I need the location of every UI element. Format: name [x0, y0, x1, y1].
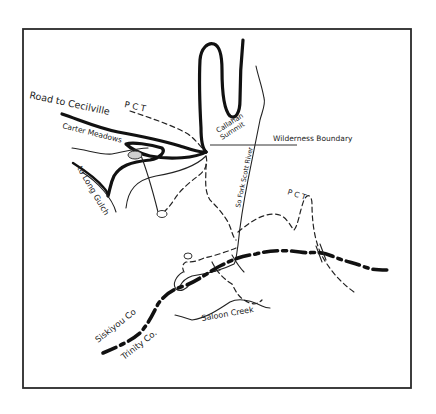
label-saloon-creek: Saloon Creek: [201, 305, 255, 323]
pct-trail-east: [238, 196, 354, 292]
label-road-to-cecilville: Road to Cecilville: [29, 89, 111, 117]
carter-meadows-lake: [128, 151, 142, 159]
map-frame: [23, 29, 411, 388]
lake-south: [157, 211, 167, 218]
label-pct-east: P C T: [286, 187, 307, 202]
pct-trail-south: [206, 164, 236, 240]
pct-trail-south-loop: [164, 156, 207, 212]
lake-east: [184, 253, 192, 259]
pct-trail-west-branch: [183, 248, 236, 272]
trail-map: Road to Cecilville P C T Carter Meadows …: [0, 0, 436, 414]
label-wilderness-boundary: Wilderness Boundary: [273, 134, 353, 143]
stream-callahan-drainage: [126, 156, 206, 208]
label-pct-north: P C T: [124, 99, 148, 113]
